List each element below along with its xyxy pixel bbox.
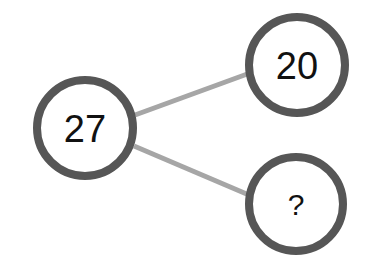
node-bottom: ?	[249, 157, 343, 251]
node-top: 20	[249, 17, 345, 113]
edge-root-top	[135, 73, 250, 115]
node-root: 27	[37, 80, 133, 176]
number-bond-diagram: 27 20 ?	[0, 0, 369, 270]
node-root-label: 27	[64, 108, 106, 150]
node-bottom-label: ?	[288, 188, 305, 221]
edge-root-bottom	[134, 146, 249, 195]
node-top-label: 20	[276, 45, 318, 87]
